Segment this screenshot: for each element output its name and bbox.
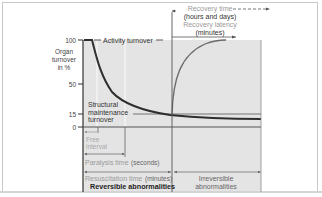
irreversible-label-line2: abnormalities <box>195 183 237 190</box>
y-tick-100: 100 <box>65 37 76 44</box>
free-interval-line2: interval <box>86 143 108 150</box>
activity-turnover-label: Activity turnover <box>103 37 153 45</box>
y-axis-label-line3: in % <box>58 64 71 71</box>
y-tick-0: 0 <box>72 124 76 131</box>
y-tick-15: 15 <box>69 111 77 118</box>
irreversible-label-line1: Irreversible <box>199 175 234 182</box>
y-tick-50: 50 <box>69 81 77 88</box>
recovery-time-unit: (hours and days) <box>184 13 237 21</box>
paralysis-time-label: Paralysis time <box>85 159 129 167</box>
turnover-diagram: 100 50 15 0 Organ turnover in % Activity… <box>0 0 322 197</box>
recovery-latency-label: Recovery latency <box>183 21 237 29</box>
y-axis-label-line2: turnover <box>52 56 77 63</box>
recovery-latency-unit: (minutes) <box>195 29 224 37</box>
y-axis-label-line1: Organ <box>55 48 73 56</box>
reversible-label: Reversible abnormalities <box>90 182 175 191</box>
paralysis-time-unit: (seconds) <box>131 159 160 167</box>
structural-label-line1: Structural <box>88 101 118 108</box>
free-interval-line1: Free <box>86 136 100 143</box>
structural-label-line3: turnover <box>88 116 114 123</box>
structural-label-line2: maintenance <box>88 109 128 116</box>
recovery-time-label: Recovery time <box>188 5 233 13</box>
